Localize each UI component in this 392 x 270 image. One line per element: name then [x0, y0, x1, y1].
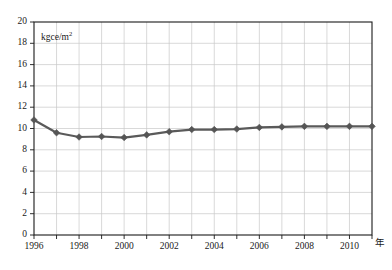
- x-tick-label: 2000: [115, 241, 134, 251]
- y-tick-label: 6: [22, 165, 27, 175]
- y-tick-label: 14: [18, 80, 28, 90]
- chart-canvas: 02468101214161820 1996199820002002200420…: [0, 0, 392, 270]
- x-tick-label: 2004: [205, 241, 224, 251]
- line-chart: 02468101214161820 1996199820002002200420…: [0, 0, 392, 270]
- y-tick-label: 12: [18, 101, 28, 111]
- unit-label: kgce/m2: [41, 30, 72, 42]
- unit-label-base: kgce/m: [41, 32, 70, 42]
- x-tick-label: 1998: [70, 241, 89, 251]
- y-tick-label: 2: [22, 208, 27, 218]
- y-tick-label: 8: [22, 144, 27, 154]
- y-tick-label: 16: [18, 59, 28, 69]
- y-tick-label: 4: [22, 187, 27, 197]
- x-tick-label: 2002: [160, 241, 179, 251]
- x-axis-name: 年: [375, 237, 385, 248]
- x-tick-label: 1996: [25, 241, 44, 251]
- x-tick-label: 2010: [340, 241, 359, 251]
- x-tick-label: 2008: [295, 241, 314, 251]
- x-tick-label: 2006: [250, 241, 269, 251]
- y-tick-label: 18: [18, 37, 28, 47]
- y-tick-label: 0: [22, 229, 27, 239]
- unit-label-exponent: 2: [69, 30, 72, 37]
- y-tick-label: 10: [18, 123, 28, 133]
- y-tick-label: 20: [18, 16, 28, 26]
